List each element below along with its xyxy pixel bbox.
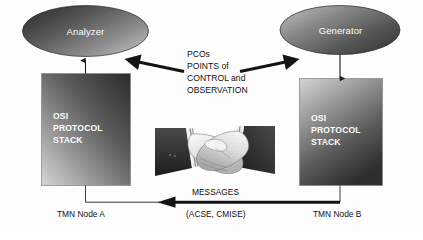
handshake-icon xyxy=(155,122,275,179)
left-node-footer-label: TMN Node A xyxy=(57,210,105,220)
messages-label: MESSAGES xyxy=(192,188,239,198)
right-stack-line-2: PROTOCOL xyxy=(311,124,361,136)
arrow-right-icon xyxy=(240,55,300,72)
left-stack-line-2: PROTOCOL xyxy=(53,122,103,134)
right-stack-line-1: OSI xyxy=(311,112,326,124)
pco-line-4: OBSERVATION xyxy=(187,84,248,96)
pco-line-3: CONTROL and xyxy=(187,72,245,84)
arrow-left-icon xyxy=(158,197,341,208)
pco-line-1: PCOs xyxy=(187,48,210,60)
pco-line-2: POINTS of xyxy=(187,60,229,72)
right-node-footer-label: TMN Node B xyxy=(313,210,361,220)
arrow-left-icon xyxy=(125,55,185,72)
right-stack-line-3: STACK xyxy=(311,136,341,148)
messages-protocols-label: (ACSE, CMISE) xyxy=(186,210,246,220)
generator-label: Generator xyxy=(300,25,381,36)
left-stack-line-1: OSI xyxy=(53,110,68,122)
left-stack-line-3: STACK xyxy=(53,134,83,146)
analyzer-label: Analyzer xyxy=(45,26,126,37)
